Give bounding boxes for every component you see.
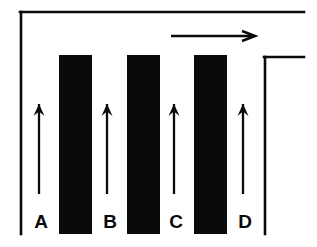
bar-2: [127, 55, 160, 234]
bar-1: [59, 55, 92, 234]
diagram-canvas: A B C D: [0, 0, 317, 247]
bar-3: [194, 55, 227, 234]
label-a: A: [34, 211, 48, 232]
bar-group: [59, 55, 227, 234]
label-b: B: [103, 211, 117, 232]
label-d: D: [238, 211, 252, 232]
flow-diagram: A B C D: [0, 0, 317, 247]
label-c: C: [169, 211, 183, 232]
